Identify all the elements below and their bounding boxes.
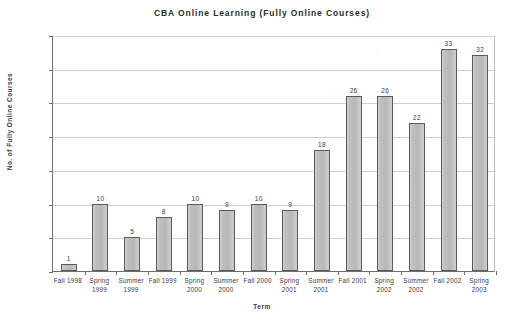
- x-tick-mark: [180, 271, 181, 275]
- gridline: [53, 238, 494, 239]
- bar: [377, 96, 393, 271]
- y-axis-title: No. of Fully Online Courses: [6, 2, 13, 242]
- bar-slot: 18: [314, 37, 330, 271]
- x-tick-mark: [369, 271, 370, 275]
- x-tick-label: Spring2003: [456, 276, 502, 294]
- x-tick-mark: [275, 271, 276, 275]
- bar: [282, 210, 298, 271]
- bar-slot: 10: [92, 37, 108, 271]
- bar-slot: 26: [377, 37, 393, 271]
- x-tick-mark: [464, 271, 465, 275]
- bar-chart: CBA Online Learning (Fully Online Course…: [0, 0, 524, 323]
- bar: [314, 150, 330, 271]
- x-tick-mark: [85, 271, 86, 275]
- bar-slot: 8: [156, 37, 172, 271]
- bar-slot: 22: [409, 37, 425, 271]
- bar: [156, 217, 172, 271]
- bar-value-label: 32: [460, 46, 500, 53]
- bar: [441, 49, 457, 272]
- bar-value-label: 10: [80, 195, 120, 202]
- x-tick-mark: [401, 271, 402, 275]
- chart-title: CBA Online Learning (Fully Online Course…: [0, 8, 524, 18]
- bar: [409, 123, 425, 271]
- y-tick-mark: [49, 36, 53, 37]
- bar-value-label: 22: [397, 114, 437, 121]
- bar-value-label: 18: [302, 141, 342, 148]
- gridline: [53, 36, 494, 37]
- bar-slot: 26: [346, 37, 362, 271]
- bar: [251, 204, 267, 271]
- x-tick-mark: [306, 271, 307, 275]
- bar: [124, 237, 140, 271]
- plot-area: 05101520253035 11058109109182626223332: [52, 36, 495, 272]
- bar-value-label: 9: [207, 201, 247, 208]
- x-tick-mark: [496, 271, 497, 275]
- gridline: [53, 103, 494, 104]
- bar-slot: 33: [441, 37, 457, 271]
- bar-slot: 32: [472, 37, 488, 271]
- bar: [92, 204, 108, 271]
- bar-slot: 10: [251, 37, 267, 271]
- bar: [187, 204, 203, 271]
- y-tick-mark: [49, 205, 53, 206]
- bar: [346, 96, 362, 271]
- gridline: [53, 171, 494, 172]
- bar: [472, 55, 488, 271]
- x-tick-mark: [338, 271, 339, 275]
- bar-slot: 9: [219, 37, 235, 271]
- y-tick-mark: [49, 137, 53, 138]
- bar: [61, 264, 77, 271]
- y-tick-mark: [49, 238, 53, 239]
- bar-value-label: 8: [144, 208, 184, 215]
- bar-slot: 5: [124, 37, 140, 271]
- bar-value-label: 5: [112, 228, 152, 235]
- x-axis-title: Term: [0, 303, 524, 310]
- bar-value-label: 26: [365, 87, 405, 94]
- bar: [219, 210, 235, 271]
- bar-value-label: 1: [49, 255, 89, 262]
- bar-slot: 10: [187, 37, 203, 271]
- x-tick-mark: [116, 271, 117, 275]
- bar-slot: 1: [61, 37, 77, 271]
- x-tick-mark: [433, 271, 434, 275]
- x-tick-mark: [211, 271, 212, 275]
- bar-value-label: 9: [270, 201, 310, 208]
- y-tick-mark: [49, 70, 53, 71]
- gridline: [53, 70, 494, 71]
- y-tick-mark: [49, 171, 53, 172]
- y-tick-mark: [49, 103, 53, 104]
- x-tick-mark: [243, 271, 244, 275]
- y-tick-mark: [49, 272, 53, 273]
- gridline: [53, 137, 494, 138]
- x-tick-mark: [148, 271, 149, 275]
- bar-slot: 9: [282, 37, 298, 271]
